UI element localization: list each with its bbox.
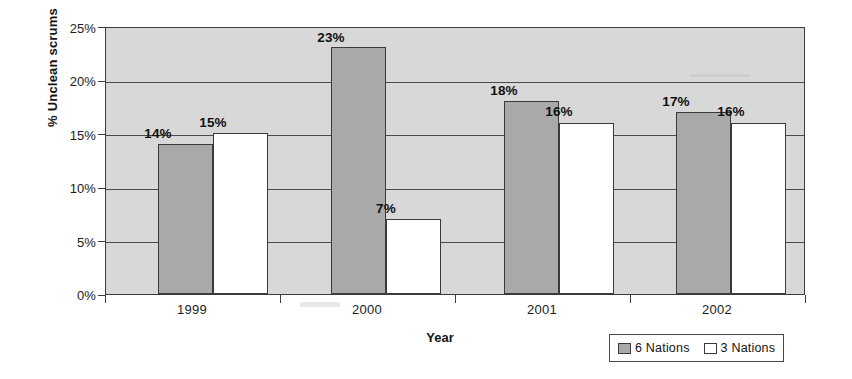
bar-value-2001-6-nations: 18% [476, 83, 532, 98]
chart-legend: 6 Nations 3 Nations [609, 334, 784, 362]
plot-area [105, 27, 805, 295]
bar-value-2000-6-nations: 23% [303, 30, 359, 45]
y-tick-label-20: 20% [50, 74, 96, 89]
x-axis-title: Year [380, 330, 500, 345]
x-tick-label-1999: 1999 [132, 302, 252, 317]
x-tick-label-2000: 2000 [307, 302, 427, 317]
legend-item-6-nations[interactable]: 6 Nations [618, 341, 690, 355]
bar-value-2000-3-nations: 7% [358, 201, 414, 216]
bar-2001-3-nations[interactable] [559, 123, 614, 295]
y-tick-label-25: 25% [50, 21, 96, 36]
y-tick-mark-0 [98, 295, 105, 296]
x-tick-label-2002: 2002 [657, 302, 777, 317]
legend-label-6-nations: 6 Nations [635, 341, 690, 355]
x-tick-mark-4 [805, 295, 806, 303]
gridline-20 [106, 82, 804, 83]
x-tick-mark-3 [630, 295, 631, 303]
gray-swatch-icon [618, 343, 631, 354]
y-tick-mark-20 [98, 81, 105, 82]
bar-value-2002-6-nations: 17% [648, 94, 704, 109]
legend-item-3-nations[interactable]: 3 Nations [704, 341, 776, 355]
y-tick-mark-25 [98, 27, 105, 28]
y-tick-label-0: 0% [50, 288, 96, 303]
y-tick-label-15: 15% [50, 128, 96, 143]
x-tick-label-2001: 2001 [482, 302, 602, 317]
white-swatch-icon [704, 343, 717, 354]
x-tick-mark-0 [105, 295, 106, 303]
bar-value-2001-3-nations: 16% [531, 104, 587, 119]
x-tick-mark-2 [455, 295, 456, 303]
bar-value-1999-6-nations: 14% [130, 126, 186, 141]
y-tick-label-10: 10% [50, 181, 96, 196]
bar-1999-3-nations[interactable] [213, 133, 268, 294]
bar-2000-6-nations[interactable] [331, 47, 386, 294]
y-tick-mark-10 [98, 188, 105, 189]
y-tick-mark-5 [98, 241, 105, 242]
bar-2002-6-nations[interactable] [676, 112, 731, 294]
bar-value-2002-3-nations: 16% [703, 104, 759, 119]
y-tick-mark-15 [98, 134, 105, 135]
bar-2000-3-nations[interactable] [386, 219, 441, 294]
x-tick-mark-1 [280, 295, 281, 303]
legend-label-3-nations: 3 Nations [721, 341, 776, 355]
bar-chart: % Unclean scrums 25% 20% 15% 10% 5% 0% 1… [0, 0, 852, 379]
bar-value-1999-3-nations: 15% [185, 115, 241, 130]
y-tick-label-5: 5% [50, 235, 96, 250]
bar-2001-6-nations[interactable] [504, 101, 559, 294]
bar-1999-6-nations[interactable] [158, 144, 213, 294]
bar-2002-3-nations[interactable] [731, 123, 786, 295]
